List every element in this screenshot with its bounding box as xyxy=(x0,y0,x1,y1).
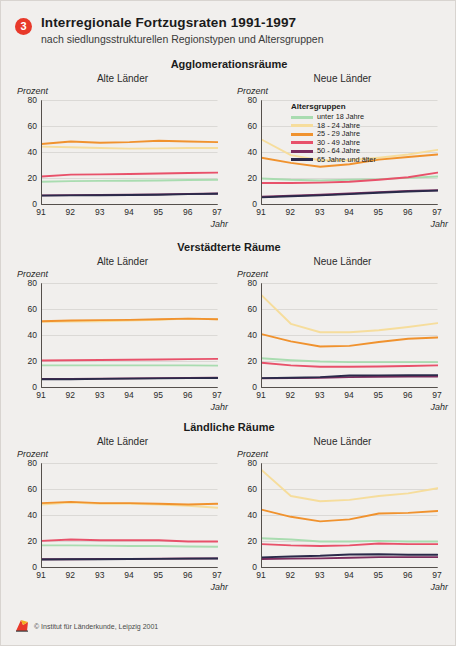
x-axis-tick: 97 xyxy=(212,390,221,400)
y-axis-tick: 60 xyxy=(28,484,37,494)
plot-canvas xyxy=(261,283,438,388)
chart-panel-neue-laender: Neue LänderProzent0204060809192939495969… xyxy=(235,435,450,590)
plot-area: 02040608091929394959697 xyxy=(261,283,437,387)
chart-panel-neue-laender: Neue LänderProzent0204060809192939495969… xyxy=(235,72,450,227)
chart-section: Ländliche RäumeAlte LänderProzent0204060… xyxy=(1,420,456,590)
y-axis-tick: 80 xyxy=(248,95,257,105)
x-axis-tick: 96 xyxy=(183,570,192,580)
legend: Altersgruppenunter 18 Jahre18 - 24 Jahre… xyxy=(291,102,376,164)
y-axis-tick: 40 xyxy=(28,147,37,157)
page-subtitle: nach siedlungsstrukturellen Regionstypen… xyxy=(41,32,456,46)
institute-logo-icon xyxy=(15,619,29,633)
chart-panel-alte-laender: Alte LänderProzent0204060809192939495969… xyxy=(15,435,230,590)
x-axis-tick: 93 xyxy=(95,207,104,217)
x-axis-tick: 92 xyxy=(66,390,75,400)
x-axis-tick: 95 xyxy=(154,207,163,217)
x-axis-tick: 93 xyxy=(95,390,104,400)
panel-title: Alte Länder xyxy=(15,435,230,449)
x-axis-tick: 97 xyxy=(432,207,441,217)
plot-area: 02040608091929394959697 xyxy=(261,463,437,567)
plot-area: 02040608091929394959697 xyxy=(41,100,217,204)
panel-pair: Alte LänderProzent0204060809192939495969… xyxy=(1,435,456,590)
y-axis-tick: 60 xyxy=(248,121,257,131)
y-axis-tick: 60 xyxy=(28,304,37,314)
plot-canvas xyxy=(41,463,218,568)
x-axis-tick: 96 xyxy=(403,390,412,400)
panel-pair: Alte LänderProzent0204060809192939495969… xyxy=(1,72,456,227)
x-axis-tick: 95 xyxy=(374,390,383,400)
y-axis-tick: 20 xyxy=(248,536,257,546)
x-axis-tick: 96 xyxy=(183,390,192,400)
x-axis-label: Jahr xyxy=(430,402,448,412)
x-axis-tick: 91 xyxy=(256,207,265,217)
y-axis-tick: 60 xyxy=(248,484,257,494)
y-axis-tick: 20 xyxy=(28,536,37,546)
x-axis-tick: 95 xyxy=(154,390,163,400)
legend-color-swatch xyxy=(291,141,313,144)
panel-title: Alte Länder xyxy=(15,72,230,86)
y-axis-tick: 80 xyxy=(28,95,37,105)
x-axis-label: Jahr xyxy=(430,219,448,229)
x-axis-label: Jahr xyxy=(210,219,228,229)
legend-item-label: 65 Jahre und älter xyxy=(317,156,376,165)
y-axis-tick: 20 xyxy=(248,356,257,366)
y-axis-tick: 40 xyxy=(28,510,37,520)
legend-title: Altersgruppen xyxy=(291,102,376,111)
x-axis-tick: 97 xyxy=(212,207,221,217)
x-axis-tick: 91 xyxy=(36,207,45,217)
x-axis-tick: 92 xyxy=(286,390,295,400)
panel-title: Neue Länder xyxy=(235,435,450,449)
panel-title: Neue Länder xyxy=(235,72,450,86)
page-header: 3 Interregionale Fortzugsraten 1991-1997… xyxy=(1,15,456,46)
y-axis-tick: 20 xyxy=(28,173,37,183)
legend-color-swatch xyxy=(291,116,313,119)
poster-page: 3 Interregionale Fortzugsraten 1991-1997… xyxy=(0,0,456,646)
chart-section: AgglomerationsräumeAlte LänderProzent020… xyxy=(1,57,456,227)
x-axis-tick: 93 xyxy=(315,207,324,217)
y-axis-tick: 40 xyxy=(248,510,257,520)
y-axis-tick: 80 xyxy=(248,458,257,468)
x-axis-tick: 91 xyxy=(256,390,265,400)
plot-area: 02040608091929394959697 xyxy=(41,463,217,567)
x-axis-label: Jahr xyxy=(210,402,228,412)
x-axis-tick: 94 xyxy=(344,390,353,400)
x-axis-tick: 93 xyxy=(95,570,104,580)
x-axis-tick: 93 xyxy=(315,390,324,400)
x-axis-tick: 97 xyxy=(432,570,441,580)
x-axis-tick: 93 xyxy=(315,570,324,580)
x-axis-tick: 92 xyxy=(66,207,75,217)
y-axis-tick: 40 xyxy=(248,147,257,157)
panel-pair: Alte LänderProzent0204060809192939495969… xyxy=(1,255,456,410)
legend-color-swatch xyxy=(291,133,313,136)
x-axis-tick: 96 xyxy=(183,207,192,217)
plot-canvas xyxy=(41,283,218,388)
x-axis-tick: 95 xyxy=(374,570,383,580)
chart-panel-alte-laender: Alte LänderProzent0204060809192939495969… xyxy=(15,72,230,227)
footer: © Institut für Länderkunde, Leipzig 2001 xyxy=(15,619,158,633)
x-axis-tick: 97 xyxy=(212,570,221,580)
x-axis-tick: 91 xyxy=(36,390,45,400)
chart-section: Verstädterte RäumeAlte LänderProzent0204… xyxy=(1,240,456,410)
plot-canvas xyxy=(41,100,218,205)
x-axis-tick: 91 xyxy=(256,570,265,580)
x-axis-tick: 96 xyxy=(403,207,412,217)
y-axis-tick: 20 xyxy=(28,356,37,366)
plot-canvas xyxy=(261,463,438,568)
y-axis-tick: 60 xyxy=(248,304,257,314)
panel-title: Alte Länder xyxy=(15,255,230,269)
x-axis-tick: 92 xyxy=(66,570,75,580)
x-axis-label: Jahr xyxy=(430,582,448,592)
x-axis-tick: 96 xyxy=(403,570,412,580)
x-axis-tick: 94 xyxy=(124,570,133,580)
y-axis-tick: 80 xyxy=(248,278,257,288)
plot-area: 02040608091929394959697 xyxy=(41,283,217,387)
chart-panel-neue-laender: Neue LänderProzent0204060809192939495969… xyxy=(235,255,450,410)
section-title: Verstädterte Räume xyxy=(1,240,456,255)
y-axis-tick: 20 xyxy=(248,173,257,183)
x-axis-tick: 91 xyxy=(36,570,45,580)
x-axis-tick: 95 xyxy=(154,570,163,580)
section-title: Ländliche Räume xyxy=(1,420,456,435)
panel-title: Neue Länder xyxy=(235,255,450,269)
legend-item: 65 Jahre und älter xyxy=(291,156,376,165)
x-axis-tick: 94 xyxy=(344,207,353,217)
